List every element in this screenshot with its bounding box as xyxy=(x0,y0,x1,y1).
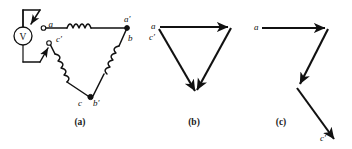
probe-upper-pointer xyxy=(31,10,40,24)
probe-arm-upper xyxy=(23,10,40,27)
caption-b: (b) xyxy=(188,117,200,128)
figure-root: V coil --> terminal a' --> xyxy=(0,0,352,149)
probe-lower-pointer xyxy=(40,48,48,62)
label-a: a xyxy=(49,19,54,29)
caption-c: (c) xyxy=(276,117,287,128)
terminal-cprime-open xyxy=(47,41,52,46)
phasor-b-left xyxy=(159,29,195,91)
label-c-a: a xyxy=(254,22,259,32)
coil-a-aprime xyxy=(67,24,91,28)
label-c: c xyxy=(78,98,82,108)
label-c-cprime: c′ xyxy=(320,133,327,143)
wire-cprime-to-coil xyxy=(50,44,55,54)
coil-b-bprime xyxy=(105,46,119,74)
phasor-c-middle xyxy=(300,29,328,84)
coil-c-cprime xyxy=(55,54,69,82)
wire-coil-to-c xyxy=(67,82,88,96)
wire-aprime-to-b xyxy=(119,28,127,46)
voltmeter-label: V xyxy=(20,32,27,42)
label-a-prime: a′ xyxy=(124,14,132,24)
label-b-prime: b′ xyxy=(93,98,101,108)
phasor-b-right xyxy=(197,28,231,90)
label-b: b xyxy=(128,33,133,43)
caption-a: (a) xyxy=(74,117,85,128)
phasor-c-bottom xyxy=(297,88,334,139)
terminal-a-open xyxy=(41,26,46,31)
terminal-aprime-solid xyxy=(125,26,130,31)
panel-c: a c′ (c) xyxy=(254,22,334,143)
panel-a: V coil --> terminal a' --> xyxy=(14,10,133,128)
panel-b: a c′ (b) xyxy=(149,21,231,128)
probe-arm-lower xyxy=(23,48,48,62)
label-c-prime: c′ xyxy=(56,34,63,44)
wire-coil-to-bprime xyxy=(93,74,104,96)
figure-canvas: V coil --> terminal a' --> xyxy=(0,0,352,149)
label-b-cprime: c′ xyxy=(149,32,156,42)
label-b-a: a xyxy=(151,21,156,31)
